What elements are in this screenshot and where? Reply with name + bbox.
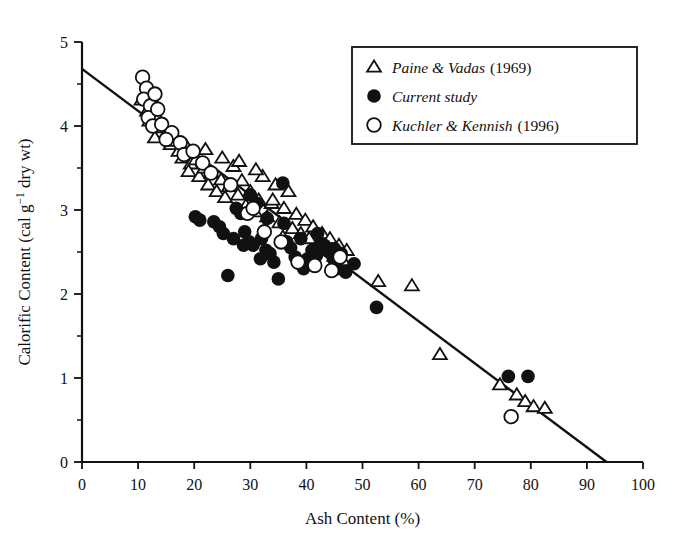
plot-svg: 0102030405060708090100012345Ash Content … (0, 0, 691, 555)
data-point-open-circle (325, 264, 339, 278)
y-tick-label: 0 (60, 454, 68, 471)
y-tick-label: 4 (60, 118, 68, 135)
legend-item-0[interactable]: Paine & Vadas(1969) (367, 59, 531, 77)
x-tick-label: 0 (78, 476, 86, 493)
data-point-open-triangle (433, 348, 447, 359)
data-point-open-triangle (266, 193, 280, 204)
data-point-filled-circle (272, 272, 286, 286)
y-tick-label: 5 (60, 34, 68, 51)
legend-item-label: Current study (392, 88, 477, 105)
data-point-open-circle (148, 87, 162, 101)
data-point-open-triangle (249, 163, 263, 174)
data-point-filled-circle (267, 255, 281, 269)
data-point-open-circle (159, 133, 173, 147)
legend-item-label: Kuchler & Kennish(1996) (391, 117, 559, 135)
data-point-filled-circle (502, 370, 516, 384)
data-point-open-triangle (371, 275, 385, 286)
x-tick-label: 40 (298, 476, 314, 493)
y-tick-label: 1 (60, 370, 68, 387)
data-point-filled-circle (521, 370, 535, 384)
data-point-open-circle (224, 178, 238, 192)
data-point-filled-circle (311, 227, 325, 241)
data-point-open-circle (333, 250, 347, 264)
data-point-open-triangle (215, 151, 229, 162)
legend-marker-open-circle (367, 118, 381, 132)
data-point-filled-circle (370, 301, 384, 315)
x-axis-title: Ash Content (%) (305, 509, 420, 528)
x-tick-label: 80 (523, 476, 539, 493)
x-tick-label: 50 (355, 476, 371, 493)
x-tick-label: 70 (467, 476, 483, 493)
x-tick-label: 10 (130, 476, 146, 493)
y-tick-label: 3 (60, 202, 68, 219)
data-point-open-circle (186, 144, 200, 158)
data-point-filled-circle (243, 188, 257, 202)
data-point-open-circle (204, 166, 218, 180)
data-point-open-circle (246, 202, 260, 216)
legend-marker-filled-circle (367, 89, 381, 103)
y-axis-title: Calorific Content (cal g−1 dry wt) (14, 138, 34, 365)
x-tick-label: 60 (411, 476, 427, 493)
data-point-filled-circle (260, 212, 274, 226)
x-tick-label: 20 (186, 476, 202, 493)
x-tick-label: 100 (631, 476, 655, 493)
data-point-filled-circle (221, 269, 235, 283)
data-point-filled-circle (207, 215, 221, 229)
data-point-open-triangle (405, 279, 419, 290)
legend-item-2[interactable]: Kuchler & Kennish(1996) (367, 117, 559, 135)
data-point-filled-circle (237, 238, 251, 252)
data-point-filled-circle (294, 232, 308, 246)
svg-text:Calorific Content (cal g−1 dry: Calorific Content (cal g−1 dry wt) (14, 138, 34, 365)
scatter-plot-figure: 0102030405060708090100012345Ash Content … (0, 0, 691, 555)
legend-item-label: Paine & Vadas(1969) (391, 59, 531, 77)
data-point-open-circle (258, 225, 272, 239)
data-point-open-circle (504, 410, 518, 424)
data-point-open-circle (308, 259, 322, 273)
data-point-open-circle (274, 235, 288, 249)
data-point-open-triangle (538, 402, 552, 413)
data-point-filled-circle (277, 217, 291, 231)
data-point-filled-circle (276, 176, 290, 190)
x-tick-label: 30 (242, 476, 258, 493)
data-point-filled-circle (193, 213, 207, 227)
x-tick-label: 90 (579, 476, 595, 493)
data-point-open-circle (151, 102, 165, 116)
data-point-filled-circle (347, 257, 361, 271)
legend-layer: Paine & Vadas(1969)Current studyKuchler … (352, 47, 637, 144)
y-tick-label: 2 (60, 286, 68, 303)
data-point-open-circle (291, 255, 305, 269)
data-point-filled-circle (254, 252, 268, 266)
